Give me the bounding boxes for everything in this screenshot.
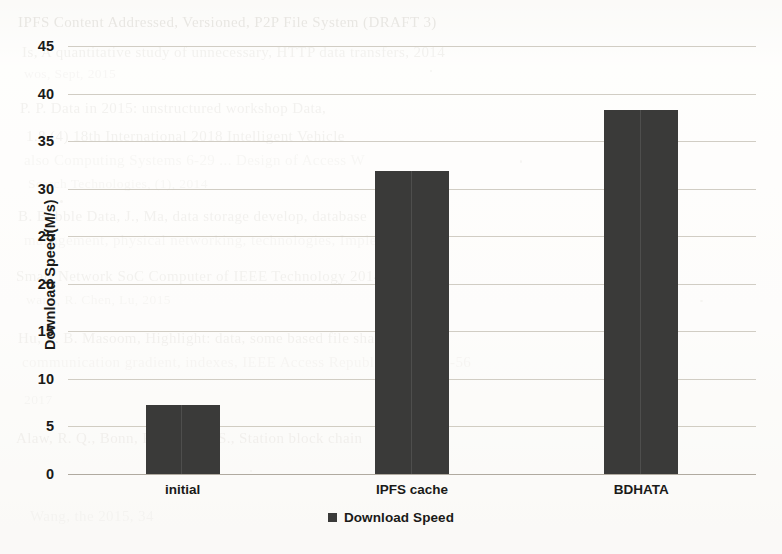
y-axis-title: Download Speed(M/s) <box>42 60 62 420</box>
bar-seam <box>411 171 412 474</box>
x-axis-line <box>68 474 756 475</box>
plot-area <box>68 46 756 474</box>
legend-swatch-icon <box>328 513 337 522</box>
bar-seam <box>640 110 641 474</box>
bar-chart: 051015202530354045 Download Speed(M/s) D… <box>0 0 782 554</box>
bar <box>604 110 678 474</box>
legend-label: Download Speed <box>344 510 454 525</box>
gridline <box>68 46 756 47</box>
x-axis-category-label: initial <box>165 482 200 497</box>
chart-legend: Download Speed <box>0 510 782 525</box>
y-axis-tick-label: 0 <box>46 467 54 482</box>
y-axis-title-text: Download Speed(M/s) <box>42 199 58 350</box>
bar-seam <box>181 405 182 474</box>
y-axis-tick-label: 45 <box>38 39 54 54</box>
bar <box>146 405 220 474</box>
gridline <box>68 94 756 95</box>
x-axis-category-label: IPFS cache <box>376 482 448 497</box>
x-axis-category-label: BDHATA <box>614 482 669 497</box>
y-axis-tick-label: 5 <box>46 419 54 434</box>
bar <box>375 171 449 474</box>
